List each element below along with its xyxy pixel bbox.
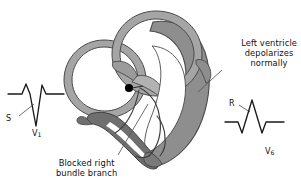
heart-conduction-diagram — [0, 0, 301, 196]
ecg-v1-waveform — [8, 84, 64, 126]
annotation-blocked-branch-line2: bundle branch — [56, 168, 117, 178]
figure-canvas: Left ventricle depolarizes normally Bloc… — [0, 0, 301, 196]
block-point-dot — [125, 84, 133, 92]
ecg-v6-lead-label: V6 — [265, 147, 274, 156]
heart-illustration — [64, 11, 211, 169]
annotation-blocked-branch: Blocked right bundle branch — [56, 158, 117, 178]
annotation-left-ventricle-line1: Left ventricle — [241, 38, 297, 48]
annotation-left-ventricle-line2: depolarizes — [241, 48, 297, 58]
ecg-v1-lead-label: V1 — [32, 129, 41, 138]
ecg-v6-lead-subscript: 6 — [270, 149, 274, 156]
ecg-v1-lead-subscript: 1 — [37, 131, 41, 138]
ecg-trace-v1 — [8, 84, 64, 126]
ecg-v6-r-wave-label: R — [229, 99, 235, 108]
annotation-blocked-branch-line1: Blocked right — [56, 158, 117, 168]
annotation-left-ventricle-line3: normally — [241, 58, 297, 68]
ecg-v1-s-wave-label: S — [6, 114, 11, 123]
annotation-left-ventricle: Left ventricle depolarizes normally — [241, 38, 297, 69]
